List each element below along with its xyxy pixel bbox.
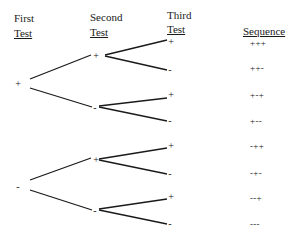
edge-pm-to-plus xyxy=(99,98,167,106)
node-level1-minus: - xyxy=(16,182,19,192)
node-level3-2: - xyxy=(168,65,171,75)
node-level3-7: + xyxy=(168,192,174,202)
node-level3-3: + xyxy=(168,90,174,100)
node-level3-6: - xyxy=(168,169,171,179)
node-level3-4: - xyxy=(168,116,171,126)
sequence-4: +-- xyxy=(250,116,262,126)
node-level3-8: - xyxy=(168,219,171,229)
edge-root-plus-to-minus xyxy=(30,88,92,107)
edge-pp-to-minus xyxy=(105,56,167,70)
node-level2-3: + xyxy=(93,155,99,165)
node-level3-5: + xyxy=(168,141,174,151)
sequence-7: --+ xyxy=(250,193,262,203)
sequence-1: +++ xyxy=(250,38,266,48)
edge-mp-to-plus xyxy=(99,148,167,159)
edge-mp-to-minus xyxy=(99,160,167,174)
edge-pm-to-minus xyxy=(99,107,167,121)
node-level2-1: + xyxy=(93,51,99,61)
sequence-2: ++- xyxy=(250,63,264,73)
edge-mm-to-plus xyxy=(99,199,167,209)
sequence-5: -++ xyxy=(250,141,264,151)
node-level3-1: + xyxy=(168,37,174,47)
sequence-3: +-+ xyxy=(250,90,264,100)
node-level2-4: - xyxy=(93,206,96,216)
edge-pp-to-plus xyxy=(105,40,167,55)
edge-root-minus-to-minus xyxy=(30,190,92,210)
node-level2-2: - xyxy=(93,103,96,113)
edge-root-minus-to-plus xyxy=(30,158,91,180)
sequence-6: -+- xyxy=(250,168,262,178)
edge-root-plus-to-plus xyxy=(30,55,91,79)
node-level1-plus: + xyxy=(15,79,21,89)
sequence-8: --- xyxy=(250,219,260,229)
edge-mm-to-minus xyxy=(99,210,167,224)
